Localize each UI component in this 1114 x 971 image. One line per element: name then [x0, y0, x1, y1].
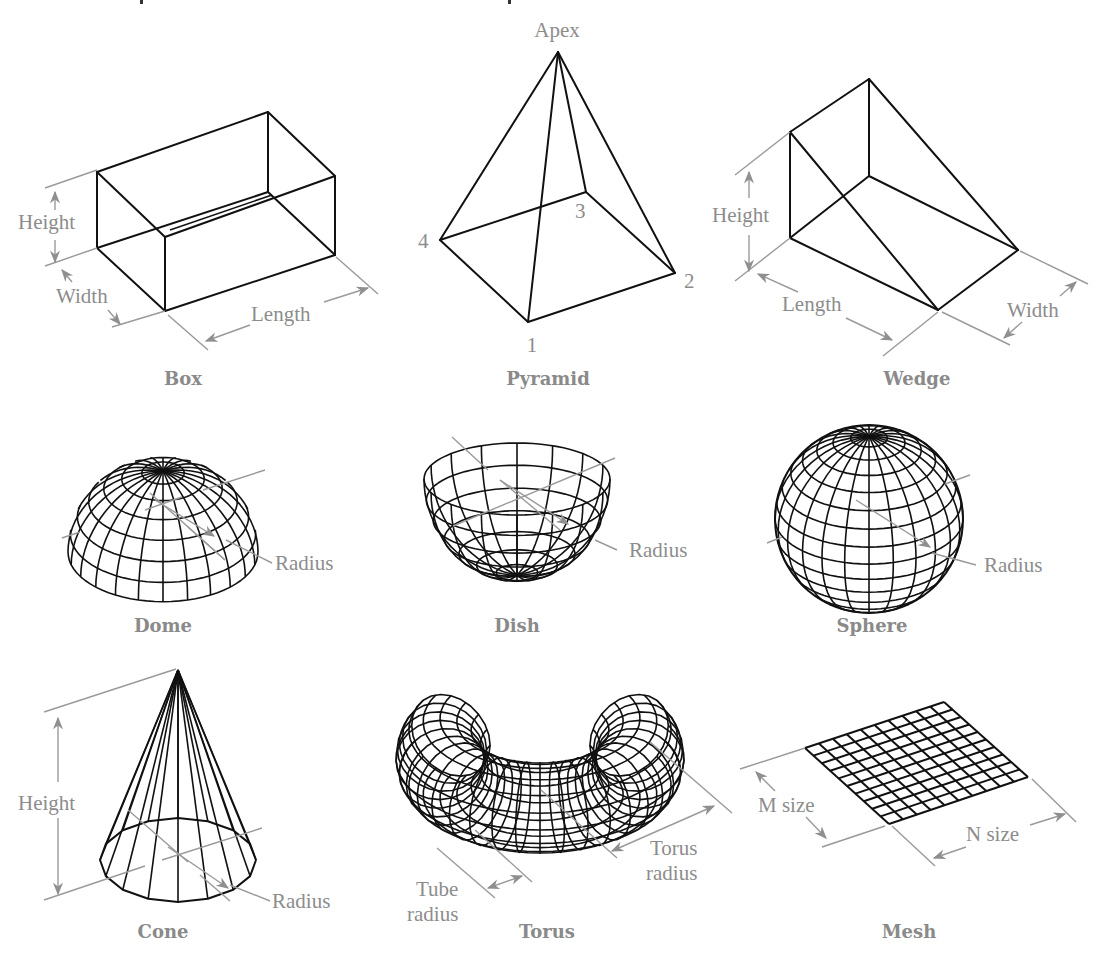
wedge-caption: Wedge: [883, 368, 951, 389]
primitives-figure: Height Width Length Box Apex 1 2 3 4 Pyr…: [0, 0, 1114, 971]
mesh-caption: Mesh: [882, 921, 937, 942]
mesh-n-size-label: N size: [966, 822, 1019, 846]
figure-canvas: Height Width Length Box Apex 1 2 3 4 Pyr…: [0, 0, 1114, 971]
dome-radius-label: Radius: [275, 551, 333, 575]
torus-caption: Torus: [519, 921, 575, 942]
cone-caption: Cone: [138, 921, 189, 942]
torus-tube-radius-label-line2: radius: [407, 902, 458, 926]
top-fragment: [140, 0, 511, 4]
pyramid-apex-label: Apex: [534, 18, 580, 42]
torus-tube-radius-label-line1: Tube: [416, 877, 458, 901]
pyramid-vertex-4-label: 4: [418, 229, 429, 253]
box-caption: Box: [164, 368, 202, 389]
wedge-width-label: Width: [1007, 298, 1059, 322]
dish-caption: Dish: [494, 615, 540, 636]
pyramid-vertex-2-label: 2: [684, 269, 695, 293]
pyramid-diagram: Apex 1 2 3 4 Pyramid: [418, 18, 695, 389]
wedge-diagram: Height Length Width Wedge: [712, 79, 1088, 389]
sphere-radius-label: Radius: [984, 553, 1042, 577]
box-top-face: [97, 112, 335, 237]
torus-diagram: Tube radius Torus radius Torus: [396, 695, 732, 943]
torus-torus-radius-label-line1: Torus: [650, 836, 698, 860]
mesh-diagram: M size N size Mesh: [740, 702, 1076, 942]
dome-caption: Dome: [134, 615, 192, 636]
pyramid-caption: Pyramid: [506, 368, 590, 389]
box-width-label: Width: [56, 284, 108, 308]
sphere-diagram: Radius Sphere: [767, 425, 1042, 636]
dome-diagram: Radius Dome: [62, 457, 333, 636]
torus-torus-radius-label-line2: radius: [646, 861, 697, 885]
sphere-caption: Sphere: [836, 615, 907, 636]
box-height-label: Height: [18, 210, 75, 234]
wedge-height-label: Height: [712, 203, 769, 227]
pyramid-vertex-3-label: 3: [575, 199, 586, 223]
mesh-m-size-label: M size: [758, 793, 815, 817]
cone-height-label: Height: [18, 791, 75, 815]
cone-radius-label: Radius: [272, 889, 330, 913]
pyramid-vertex-1-label: 1: [527, 333, 538, 357]
dish-diagram: Radius Dish: [424, 437, 687, 636]
dish-radius-label: Radius: [629, 538, 687, 562]
box-diagram: Height Width Length Box: [18, 112, 378, 389]
wedge-length-label: Length: [782, 292, 842, 316]
box-length-label: Length: [251, 302, 311, 326]
cone-diagram: Height Radius Cone: [18, 669, 330, 942]
